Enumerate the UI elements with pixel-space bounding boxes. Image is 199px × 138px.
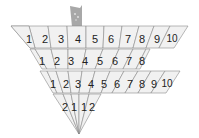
row-2-cell-5: 5 [97,55,103,67]
row-3-cell-3: 3 [75,78,81,90]
row-3-cell-8: 8 [139,78,145,90]
row-2-cell-6: 6 [112,55,118,67]
row-3-cell-7: 7 [127,78,133,90]
row-3-cell-9: 9 [151,78,157,90]
row-1-cell-10: 10 [166,33,178,44]
row-3-cell-2: 2 [63,78,69,90]
row-1-cell-4: 4 [75,33,81,45]
row-1-cell-3: 3 [58,33,64,45]
row-2-cell-4: 4 [82,55,88,67]
fan-diagram: 1 2 3 4 5 6 7 8 9 10 1 2 3 4 5 6 7 8 [0,0,199,138]
row-3-cell-5: 5 [101,78,107,90]
row-4 [53,94,101,134]
row-4-cell-2: 1 [71,101,77,113]
row-3-cell-1: 1 [50,78,56,90]
top-tab [70,5,82,27]
row-4-cell-3: 1 [81,101,87,113]
row-2-cell-2: 2 [54,55,60,67]
row-1-cell-5: 5 [92,33,98,45]
row-2-cell-8: 8 [139,55,145,67]
row-3-cell-4: 4 [88,78,94,90]
row-3-cell-6: 6 [114,78,120,90]
row-2-cell-7: 7 [126,55,132,67]
row-1-cell-6: 6 [108,33,114,45]
row-3-cell-10: 10 [161,78,173,89]
row-1-cell-8: 8 [139,33,145,45]
row-4-cell-4: 2 [89,101,95,113]
row-1-cell-1: 1 [26,33,32,45]
row-2-cell-3: 3 [68,55,74,67]
row-3 [40,71,180,93]
row-1-cell-7: 7 [125,33,131,45]
row-1 [11,26,188,48]
row-1-cell-2: 2 [42,33,48,45]
row-2-cell-1: 1 [39,55,45,67]
row-1-cell-9: 9 [154,33,160,45]
row-4-cell-1: 2 [62,101,68,113]
